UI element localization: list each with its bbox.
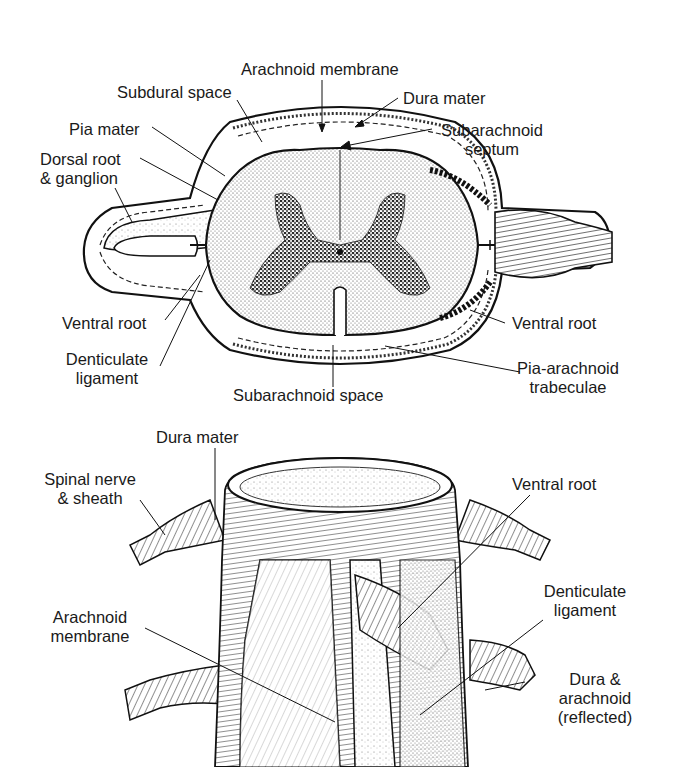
label-arachnoid-membrane-bottom-line1: Arachnoid bbox=[40, 608, 140, 626]
label-spinal-nerve-line2: & sheath bbox=[30, 489, 150, 507]
label-subarachnoid-septum-line1: Subarachnoid bbox=[437, 121, 547, 139]
label-denticulate-bottom-line1: Denticulate bbox=[530, 582, 640, 600]
label-pia-mater: Pia mater bbox=[69, 120, 140, 138]
label-arachnoid-membrane-bottom-line2: membrane bbox=[40, 627, 140, 645]
label-subarachnoid-space: Subarachnoid space bbox=[233, 386, 383, 404]
label-dura-mater-top: Dura mater bbox=[403, 89, 486, 107]
label-arachnoid-membrane: Arachnoid membrane bbox=[241, 60, 399, 78]
label-dura-arachnoid-line2: arachnoid bbox=[545, 689, 645, 707]
label-ventral-root-right: Ventral root bbox=[512, 314, 596, 332]
label-pia-arachnoid-line2: trabeculae bbox=[503, 378, 633, 396]
label-denticulate-bottom-line2: ligament bbox=[530, 601, 640, 619]
label-spinal-nerve-line1: Spinal nerve bbox=[30, 470, 150, 488]
label-dorsal-root-line2: & ganglion bbox=[40, 169, 118, 187]
label-denticulate-line2: ligament bbox=[52, 369, 162, 387]
label-dura-mater-bottom: Dura mater bbox=[156, 428, 239, 446]
label-dura-arachnoid-line3: (reflected) bbox=[545, 708, 645, 726]
label-ventral-root-left: Ventral root bbox=[62, 314, 146, 332]
opened-meninges-panel bbox=[125, 458, 550, 767]
label-pia-arachnoid-line1: Pia-arachnoid bbox=[503, 359, 633, 377]
label-dorsal-root-line1: Dorsal root bbox=[40, 150, 121, 168]
label-ventral-root-bottom: Ventral root bbox=[512, 475, 596, 493]
label-subarachnoid-septum-line2: septum bbox=[437, 140, 547, 158]
label-subdural-space: Subdural space bbox=[117, 83, 232, 101]
label-denticulate-line1: Denticulate bbox=[52, 350, 162, 368]
label-dura-arachnoid-line1: Dura & bbox=[545, 670, 645, 688]
